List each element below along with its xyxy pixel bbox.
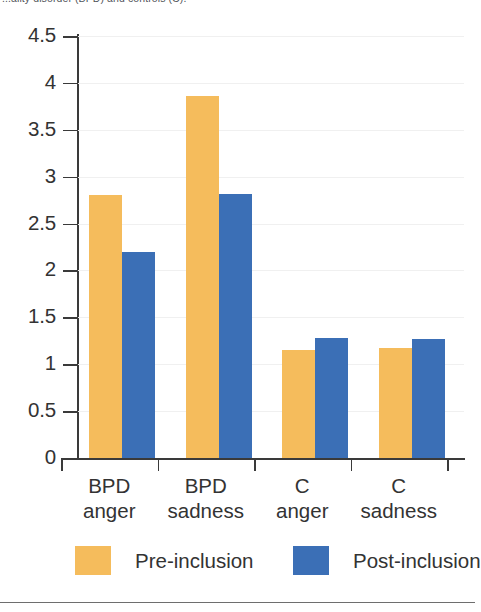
y-axis-tick-mark [63,36,78,38]
x-axis-tick-mark [351,458,353,471]
x-axis-category-label-line: anger [254,498,351,523]
y-axis-tick: 0 [0,458,78,459]
y-axis-tick: 3 [0,177,78,178]
bar [379,348,412,458]
figure-caption-text: ...ality disorder (BPD) and controls (C)… [2,0,186,4]
x-axis-category-label-line: C [351,473,448,498]
y-axis-tick-label: 0.5 [28,398,56,422]
y-axis-tick: 2 [0,270,78,271]
y-axis-tick-label: 1 [45,351,56,375]
x-axis-category-label: BPDanger [61,473,158,523]
plot-area [78,36,464,458]
chart-legend: Pre-inclusion Post-inclusion [0,546,475,580]
y-axis-tick: 4.5 [0,36,78,37]
x-axis-category-label-line: C [254,473,351,498]
x-axis-category-label-line: BPD [61,473,158,498]
y-axis-tick-label: 4.5 [28,23,56,47]
x-axis-category-label: Canger [254,473,351,523]
y-axis-tick-label: 3.5 [28,117,56,141]
y-axis-tick: 2.5 [0,224,78,225]
x-axis-category-label-line: anger [61,498,158,523]
figure-caption-clipped: ...ality disorder (BPD) and controls (C)… [0,0,475,9]
y-axis-tick-label: 1.5 [28,304,56,328]
page-bottom-rule [0,602,475,603]
x-axis-category-label-line: sadness [158,498,255,523]
y-axis-tick-mark [63,224,78,226]
y-axis-tick-mark [63,177,78,179]
y-axis-tick-mark [63,458,78,460]
x-axis-line [61,458,465,460]
x-axis-tick-mark [61,458,63,471]
y-axis-tick-mark [63,130,78,132]
y-axis-tick-mark [63,411,78,413]
y-axis-tick: 1.5 [0,317,78,318]
x-axis-tick-mark [447,458,449,471]
x-axis-category-label: BPDsadness [158,473,255,523]
y-axis-tick-mark [63,83,78,85]
bar [186,96,219,458]
y-axis-tick-label: 2 [45,257,56,281]
x-axis-category-label: Csadness [351,473,448,523]
legend-swatch-pre-inclusion [75,546,111,575]
bar [219,194,252,458]
y-axis-tick-label: 3 [45,164,56,188]
x-axis-category-label-line: BPD [158,473,255,498]
x-axis-tick-mark [254,458,256,471]
x-axis-category-label-line: sadness [351,498,448,523]
y-axis-tick: 1 [0,364,78,365]
legend-label-post-inclusion: Post-inclusion [353,549,481,573]
y-axis-tick: 0.5 [0,411,78,412]
y-axis-tick: 4 [0,83,78,84]
legend-swatch-post-inclusion [293,546,329,575]
y-axis-tick-mark [63,270,78,272]
legend-item-post-inclusion: Post-inclusion [293,546,481,575]
bar [412,339,445,458]
y-axis-tick-mark [63,364,78,366]
legend-item-pre-inclusion: Pre-inclusion [75,546,254,575]
y-axis-tick-label: 0 [45,445,56,469]
x-axis-tick-mark [158,458,160,471]
y-axis-tick: 3.5 [0,130,78,131]
bar [315,338,348,458]
legend-label-pre-inclusion: Pre-inclusion [135,549,254,573]
bar [89,195,122,458]
y-axis-tick-label: 4 [45,70,56,94]
bar [122,252,155,458]
bar [282,350,315,458]
y-axis-tick-mark [63,317,78,319]
y-axis-tick-label: 2.5 [28,211,56,235]
